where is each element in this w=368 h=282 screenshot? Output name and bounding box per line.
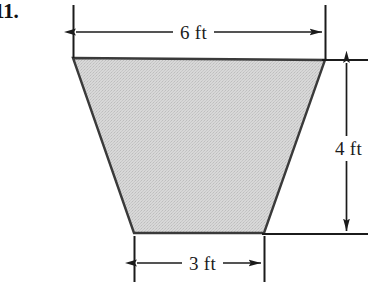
dimension-label-top: 6 ft (173, 21, 214, 44)
dimension-label-bottom: 3 ft (182, 252, 223, 275)
problem-number-label: 11. (0, 1, 19, 22)
trapezoid-shape (73, 58, 325, 233)
dimension-label-right: 4 ft (330, 136, 364, 161)
figure-container: 11. 6 ft 4 ft 3 ft (0, 0, 368, 282)
